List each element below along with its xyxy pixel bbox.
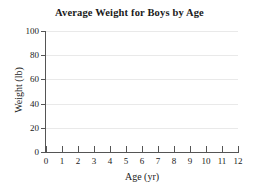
- gridline-y-40: [46, 104, 238, 105]
- y-tick-100: [41, 31, 45, 32]
- chart-figure: Average Weight for Boys by Age 100 80 60…: [0, 0, 259, 194]
- y-tick-0: [41, 152, 45, 153]
- x-tick-11: [222, 146, 223, 152]
- y-tick-60: [41, 79, 45, 80]
- x-axis-spine: [45, 152, 239, 153]
- x-tick-1: [62, 146, 63, 152]
- x-tick-5: [126, 146, 127, 152]
- gridline-y-20: [46, 128, 238, 129]
- y-tick-80: [41, 55, 45, 56]
- y-tick-label-100: 100: [15, 27, 39, 36]
- y-axis-label: Weight (lb): [13, 40, 25, 140]
- x-tick-6: [142, 146, 143, 152]
- x-tick-12: [238, 146, 239, 152]
- x-tick-3: [94, 146, 95, 152]
- x-axis-label: Age (yr): [46, 171, 238, 183]
- gridline-y-60: [46, 79, 238, 80]
- gridline-y-100: [46, 31, 238, 32]
- x-tick-0: [46, 146, 47, 152]
- x-tick-2: [78, 146, 79, 152]
- y-tick-20: [41, 128, 45, 129]
- plot-area: [46, 31, 238, 152]
- y-tick-40: [41, 104, 45, 105]
- x-tick-9: [190, 146, 191, 152]
- x-tick-10: [206, 146, 207, 152]
- x-tick-label-12: 12: [228, 156, 248, 166]
- x-tick-8: [174, 146, 175, 152]
- x-tick-7: [158, 146, 159, 152]
- x-tick-4: [110, 146, 111, 152]
- y-axis-spine: [45, 31, 46, 153]
- gridline-y-80: [46, 55, 238, 56]
